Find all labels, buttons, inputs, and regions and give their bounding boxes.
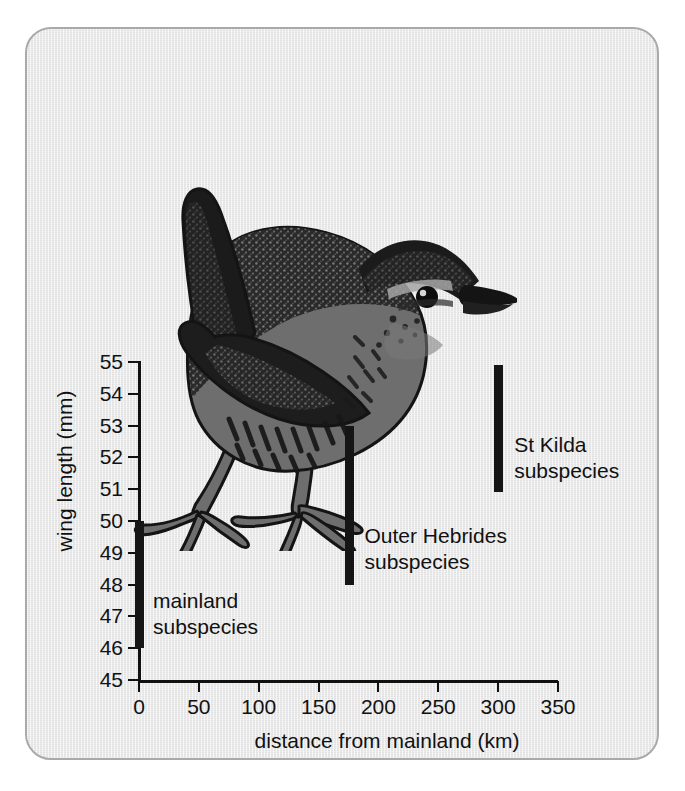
y-tick-label-50: 50 — [77, 510, 123, 531]
x-tick-300 — [497, 681, 499, 692]
range-bar-2 — [494, 365, 503, 492]
range-bar-label-line2-1: subspecies — [365, 549, 507, 575]
x-tick-250 — [437, 681, 439, 692]
y-tick-label-51: 51 — [77, 478, 123, 499]
range-bar-label-line1-1: Outer Hebrides — [365, 523, 507, 549]
plot-area: 4546474849505152535455 05010015020025030… — [27, 29, 657, 758]
x-tick-350 — [557, 681, 559, 692]
x-tick-label-350: 350 — [523, 696, 593, 717]
x-tick-0 — [138, 681, 140, 692]
y-axis-title: wing length (mm) — [53, 371, 77, 571]
y-tick-label-53: 53 — [77, 415, 123, 436]
x-axis-title: distance from mainland (km) — [227, 729, 547, 753]
x-tick-50 — [198, 681, 200, 692]
y-tick-54 — [128, 393, 139, 395]
y-tick-label-46: 46 — [77, 637, 123, 658]
x-axis-line — [138, 680, 558, 683]
y-tick-53 — [128, 425, 139, 427]
range-bar-label-1: Outer Hebridessubspecies — [365, 523, 507, 575]
range-bar-label-line1-0: mainland — [153, 588, 258, 614]
y-tick-label-48: 48 — [77, 574, 123, 595]
y-tick-label-54: 54 — [77, 383, 123, 404]
figure-panel: 4546474849505152535455 05010015020025030… — [25, 27, 659, 760]
range-bar-label-0: mainlandsubspecies — [153, 588, 258, 640]
y-tick-label-45: 45 — [77, 669, 123, 690]
y-tick-label-52: 52 — [77, 446, 123, 467]
range-bar-label-2: St Kildasubspecies — [514, 432, 619, 484]
y-tick-52 — [128, 456, 139, 458]
x-tick-100 — [258, 681, 260, 692]
range-bar-label-line2-2: subspecies — [514, 458, 619, 484]
y-tick-label-55: 55 — [77, 351, 123, 372]
x-tick-200 — [377, 681, 379, 692]
y-tick-55 — [128, 361, 139, 363]
range-bar-label-line1-2: St Kilda — [514, 432, 619, 458]
y-tick-label-47: 47 — [77, 605, 123, 626]
x-tick-150 — [318, 681, 320, 692]
figure-root: 4546474849505152535455 05010015020025030… — [0, 0, 685, 791]
range-bar-0 — [135, 521, 144, 648]
range-bar-1 — [345, 426, 354, 585]
y-tick-label-49: 49 — [77, 542, 123, 563]
range-bar-label-line2-0: subspecies — [153, 614, 258, 640]
y-tick-51 — [128, 488, 139, 490]
